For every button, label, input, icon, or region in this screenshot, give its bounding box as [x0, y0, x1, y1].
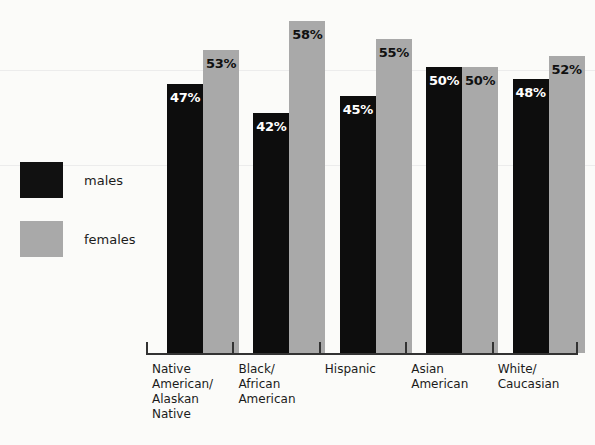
legend-item-males: males	[20, 162, 136, 198]
bar-males[interactable]: 50%	[426, 67, 462, 353]
legend-item-females: females	[20, 221, 136, 257]
bar-value-label: 47%	[167, 90, 203, 105]
bar-females[interactable]: 52%	[549, 56, 585, 353]
bar-value-label: 48%	[513, 85, 549, 100]
bar-males[interactable]: 45%	[340, 96, 376, 353]
axis-tick	[146, 342, 148, 354]
axis-tick	[576, 342, 578, 354]
axis-tick	[405, 342, 407, 354]
category-label: Hispanic	[319, 357, 405, 422]
bar-value-label: 52%	[549, 62, 585, 77]
category-label: Asian American	[405, 357, 491, 422]
chart-legend: males females	[20, 162, 136, 280]
axis-tick	[232, 342, 234, 354]
legend-label-males: males	[84, 173, 123, 188]
legend-swatch-females	[20, 221, 63, 257]
legend-swatch-males	[20, 162, 63, 198]
bar-chart-figure: males females 47%53%42%58%45%55%50%50%48…	[0, 0, 595, 445]
bar-group: 45%55%	[319, 10, 405, 353]
category-label: White/ Caucasian	[492, 357, 578, 422]
x-axis-ticks	[146, 342, 578, 354]
bar-males[interactable]: 42%	[253, 113, 289, 353]
plot-area: 47%53%42%58%45%55%50%50%48%52%	[146, 10, 578, 353]
bar-value-label: 45%	[340, 102, 376, 117]
category-label: Black/ African American	[232, 357, 318, 422]
bar-group: 50%50%	[405, 10, 491, 353]
bar-value-label: 42%	[253, 119, 289, 134]
bar-value-label: 50%	[426, 73, 462, 88]
bar-males[interactable]: 48%	[513, 79, 549, 353]
bar-groups: 47%53%42%58%45%55%50%50%48%52%	[146, 10, 578, 353]
bar-group: 48%52%	[492, 10, 578, 353]
axis-tick	[492, 342, 494, 354]
axis-tick	[319, 342, 321, 354]
bar-group: 47%53%	[146, 10, 232, 353]
bar-group: 42%58%	[232, 10, 318, 353]
bar-males[interactable]: 47%	[167, 84, 203, 353]
legend-label-females: females	[84, 232, 136, 247]
category-label: Native American/ Alaskan Native	[146, 357, 232, 422]
category-labels: Native American/ Alaskan NativeBlack/ Af…	[146, 357, 578, 422]
